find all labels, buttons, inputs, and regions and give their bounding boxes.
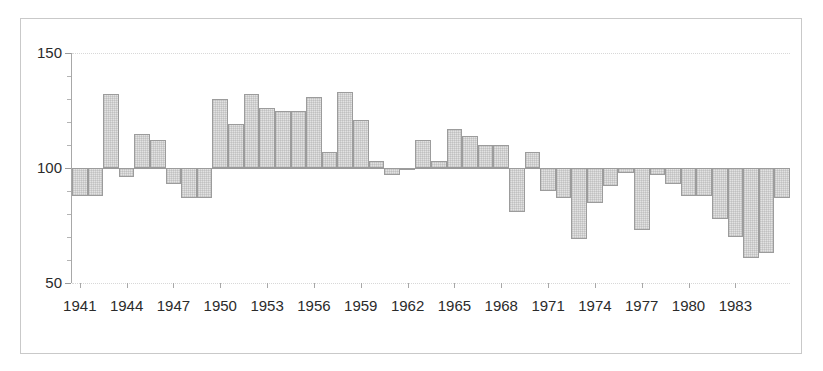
bar	[150, 140, 166, 168]
x-tick-label: 1971	[531, 298, 564, 313]
bar	[743, 168, 759, 258]
bar	[759, 168, 775, 253]
y-tick-label: 150	[37, 45, 62, 60]
x-tick-label: 1944	[110, 298, 143, 313]
bar	[181, 168, 197, 198]
y-tick-minor	[67, 214, 71, 215]
x-axis-labels: 1941194419471950195319561959196219651968…	[0, 298, 823, 322]
x-tick	[595, 283, 596, 288]
bar	[665, 168, 681, 184]
x-tick-label: 1941	[63, 298, 96, 313]
x-tick-label: 1962	[391, 298, 424, 313]
x-tick	[408, 283, 409, 288]
bar	[88, 168, 104, 196]
y-tick-minor	[67, 145, 71, 146]
bar	[259, 108, 275, 168]
bar	[603, 168, 619, 186]
bar	[587, 168, 603, 203]
bar	[462, 136, 478, 168]
x-tick-label: 1983	[719, 298, 752, 313]
y-tick-label: 50	[45, 275, 62, 290]
x-tick	[361, 283, 362, 288]
y-tick-minor	[67, 122, 71, 123]
x-tick	[80, 283, 81, 288]
x-tick-label: 1953	[250, 298, 283, 313]
x-tick-label: 1968	[485, 298, 518, 313]
bar	[291, 111, 307, 169]
x-tick	[127, 283, 128, 288]
y-tick-major	[65, 283, 71, 284]
gridline	[72, 53, 790, 54]
plot-area	[72, 53, 790, 283]
y-tick-minor	[67, 237, 71, 238]
x-tick	[501, 283, 502, 288]
bar	[681, 168, 697, 196]
x-tick	[735, 283, 736, 288]
bar	[353, 120, 369, 168]
bar	[431, 161, 447, 168]
bar	[696, 168, 712, 196]
bar	[306, 97, 322, 168]
y-tick-minor	[67, 260, 71, 261]
x-tick	[642, 283, 643, 288]
bar	[134, 134, 150, 169]
bar	[634, 168, 650, 230]
x-tick	[454, 283, 455, 288]
bar	[493, 145, 509, 168]
bar	[119, 168, 135, 177]
x-tick-label: 1965	[438, 298, 471, 313]
bar	[103, 94, 119, 168]
bar	[228, 124, 244, 168]
x-tick-label: 1974	[578, 298, 611, 313]
bar	[509, 168, 525, 212]
bar	[369, 161, 385, 168]
x-tick	[220, 283, 221, 288]
x-tick	[173, 283, 174, 288]
bar	[244, 94, 260, 168]
x-tick	[689, 283, 690, 288]
y-tick-label: 100	[37, 160, 62, 175]
bar	[712, 168, 728, 219]
x-tick	[548, 283, 549, 288]
x-tick-label: 1980	[672, 298, 705, 313]
bar	[400, 168, 416, 170]
x-tick-label: 1947	[157, 298, 190, 313]
bar	[774, 168, 790, 198]
bar	[650, 168, 666, 175]
bar	[540, 168, 556, 191]
bar	[384, 168, 400, 175]
y-tick-minor	[67, 99, 71, 100]
bar	[618, 168, 634, 173]
bar	[728, 168, 744, 237]
bar	[337, 92, 353, 168]
bar	[166, 168, 182, 184]
bar	[197, 168, 213, 198]
bar	[415, 140, 431, 168]
chart-figure: 50100150 1941194419471950195319561959196…	[0, 0, 823, 371]
bar	[571, 168, 587, 239]
x-axis-ticks	[72, 283, 790, 289]
y-tick-major	[65, 168, 71, 169]
x-tick-label: 1950	[204, 298, 237, 313]
bar	[447, 129, 463, 168]
bar	[525, 152, 541, 168]
y-tick-minor	[67, 76, 71, 77]
bar	[556, 168, 572, 198]
bar	[478, 145, 494, 168]
x-tick-label: 1956	[297, 298, 330, 313]
x-tick	[267, 283, 268, 288]
bar	[275, 111, 291, 169]
bar	[212, 99, 228, 168]
bar	[322, 152, 338, 168]
y-tick-minor	[67, 191, 71, 192]
x-tick-label: 1959	[344, 298, 377, 313]
x-tick-label: 1977	[625, 298, 658, 313]
bar	[72, 168, 88, 196]
y-tick-major	[65, 53, 71, 54]
x-tick	[314, 283, 315, 288]
